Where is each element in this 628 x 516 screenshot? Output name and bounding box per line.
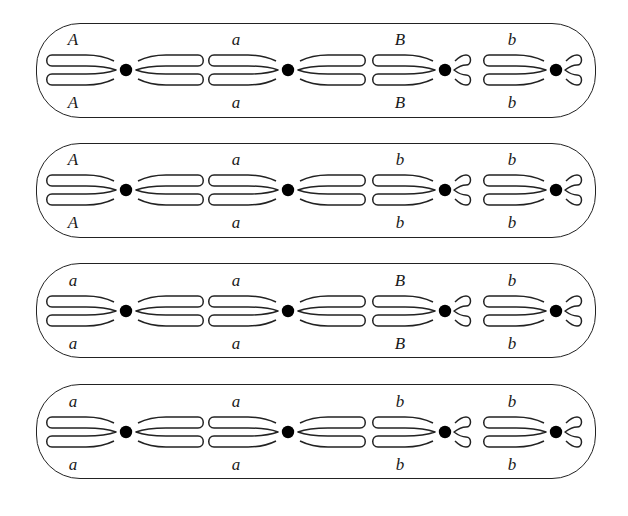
- allele-label-top: a: [232, 272, 241, 289]
- allele-label-bottom: a: [232, 214, 241, 231]
- allele-label-top: b: [508, 31, 517, 48]
- allele-label-top: b: [508, 151, 517, 168]
- allele-label-top: B: [395, 31, 405, 48]
- allele-label-top: A: [68, 151, 78, 168]
- allele-label-top: a: [232, 393, 241, 410]
- allele-label-bottom: b: [508, 94, 517, 111]
- allele-label-bottom: b: [508, 456, 517, 473]
- allele-label-top: a: [69, 393, 78, 410]
- allele-label-bottom: a: [69, 335, 78, 352]
- chromosome-long-1: [47, 55, 204, 85]
- allele-label-bottom: a: [69, 456, 78, 473]
- allele-label-top: b: [508, 272, 517, 289]
- allele-label-top: a: [69, 272, 78, 289]
- allele-label-top: a: [232, 151, 241, 168]
- panel-3-chromosomes: [47, 296, 582, 326]
- allele-label-top: b: [508, 393, 517, 410]
- allele-label-bottom: a: [232, 94, 241, 111]
- allele-label-top: b: [396, 151, 405, 168]
- allele-label-bottom: B: [395, 94, 405, 111]
- allele-label-bottom: b: [396, 214, 405, 231]
- allele-label-bottom: b: [396, 456, 405, 473]
- allele-label-bottom: a: [232, 456, 241, 473]
- panel-2-chromosomes: [47, 175, 582, 205]
- chromosome-short-2: [484, 55, 582, 85]
- chromosomes-drawing: [0, 0, 628, 516]
- panel-1-chromosomes: [47, 55, 582, 85]
- allele-label-top: B: [395, 272, 405, 289]
- panel-4-chromosomes: [47, 417, 582, 447]
- allele-label-bottom: b: [508, 335, 517, 352]
- allele-label-bottom: b: [508, 214, 517, 231]
- allele-label-top: A: [68, 31, 78, 48]
- allele-label-top: a: [232, 31, 241, 48]
- chromosome-long-2: [209, 55, 366, 85]
- allele-label-bottom: A: [68, 94, 78, 111]
- allele-label-bottom: A: [68, 214, 78, 231]
- chromosome-short-1: [373, 55, 471, 85]
- allele-label-top: b: [396, 393, 405, 410]
- allele-label-bottom: B: [395, 335, 405, 352]
- allele-label-bottom: a: [232, 335, 241, 352]
